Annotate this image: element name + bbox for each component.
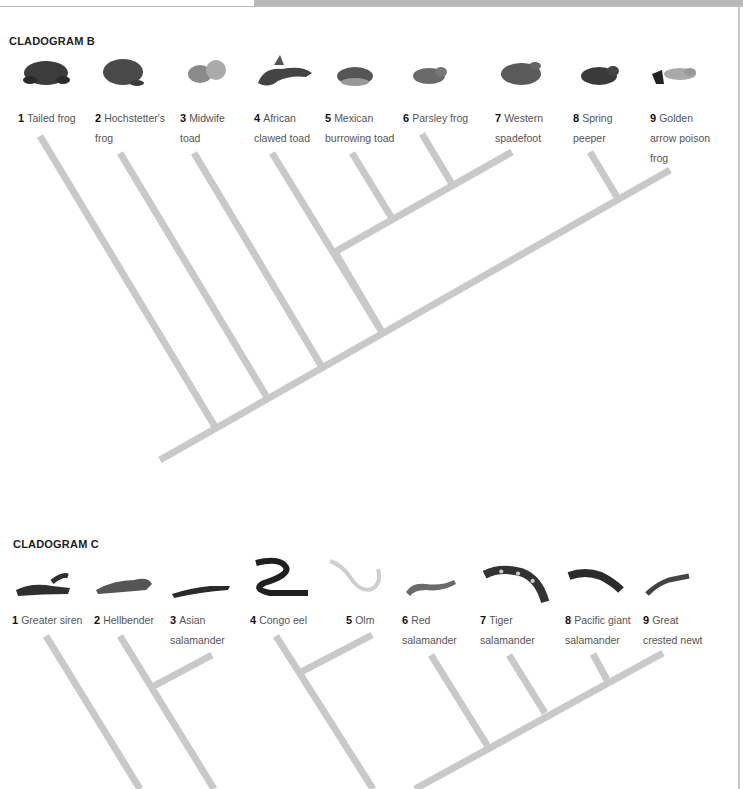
salamander-icon <box>565 566 627 600</box>
newt-icon <box>643 566 705 600</box>
salamander-icon <box>402 570 464 604</box>
salamander-icon <box>480 560 556 606</box>
cladogram-c-tree <box>0 0 743 789</box>
eel-icon <box>250 556 312 598</box>
salamander-icon <box>170 570 232 604</box>
siren-icon <box>12 566 74 600</box>
olm-icon <box>328 556 390 598</box>
salamander-icon <box>94 566 156 600</box>
